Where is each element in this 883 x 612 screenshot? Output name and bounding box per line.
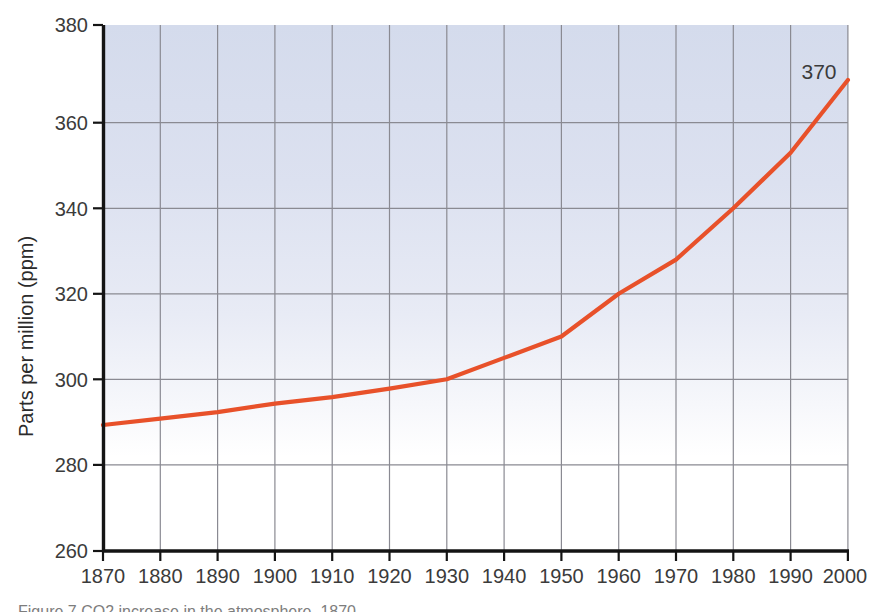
y-axis-ticks: [93, 25, 103, 551]
x-tick-label: 1900: [253, 565, 298, 587]
x-tick-label: 1890: [195, 565, 240, 587]
y-axis-tick-labels: 380 360 340 320 300 280 260: [55, 14, 88, 562]
x-tick-label: 1960: [596, 565, 641, 587]
x-tick-label: 1980: [711, 565, 756, 587]
x-tick-label: 1870: [81, 565, 126, 587]
x-tick-label: 1950: [539, 565, 584, 587]
x-tick-label: 2000: [823, 565, 868, 587]
y-axis-title: Parts per million (ppm): [15, 236, 37, 437]
y-tick-label: 260: [55, 540, 88, 562]
co2-line-chart: 380 360 340 320 300 280 260 1870 1880 18…: [0, 0, 883, 612]
y-tick-label: 380: [55, 14, 88, 36]
y-tick-label: 300: [55, 369, 88, 391]
figure-caption: Figure 7 CO2 increase in the atmosphere,…: [18, 599, 538, 612]
x-tick-label: 1930: [425, 565, 470, 587]
x-tick-label: 1990: [768, 565, 813, 587]
data-point-annotation-370: 370: [801, 60, 836, 83]
y-tick-label: 320: [55, 283, 88, 305]
figure-root: 380 360 340 320 300 280 260 1870 1880 18…: [0, 0, 883, 612]
y-tick-label: 360: [55, 112, 88, 134]
x-tick-label: 1970: [654, 565, 699, 587]
x-tick-label: 1920: [367, 565, 412, 587]
y-tick-label: 340: [55, 198, 88, 220]
x-axis-tick-labels: 1870 1880 1890 1900 1910 1920 1930 1940 …: [81, 565, 868, 587]
x-tick-label: 1910: [310, 565, 355, 587]
plot-background: [103, 25, 848, 551]
y-tick-label: 280: [55, 454, 88, 476]
x-tick-label: 1940: [482, 565, 527, 587]
x-tick-label: 1880: [138, 565, 183, 587]
